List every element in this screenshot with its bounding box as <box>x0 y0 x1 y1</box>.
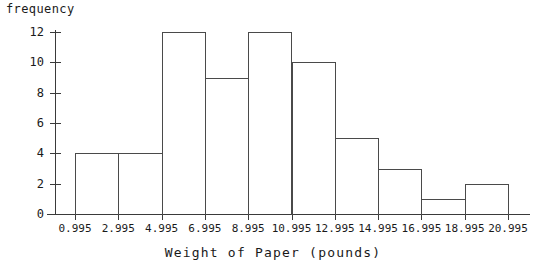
y-tick-label-4: 4 <box>10 147 44 159</box>
x-axis-title: Weight of Paper (pounds) <box>0 245 546 260</box>
histogram-bar <box>162 32 206 215</box>
x-tick-label-10: 20.995 <box>481 223 535 235</box>
histogram-bar <box>421 199 465 215</box>
y-tick-12 <box>50 32 61 33</box>
histogram-bar <box>378 169 422 216</box>
histogram-bar <box>205 78 249 216</box>
y-tick-label-12: 12 <box>10 26 44 38</box>
y-tick-label-2: 2 <box>10 178 44 190</box>
y-tick-label-8-wrap: 8 <box>0 87 44 99</box>
y-tick-label-0-wrap: 0 <box>0 208 44 220</box>
y-tick-6 <box>50 123 61 124</box>
histogram-bar <box>248 32 292 215</box>
plot-area: 0 2 4 6 8 10 12 <box>0 0 546 273</box>
y-tick-label-2-wrap: 2 <box>0 178 44 190</box>
histogram-bar <box>292 62 336 215</box>
histogram-bar <box>75 153 119 215</box>
histogram-figure: frequency 0 2 4 6 8 10 12 <box>0 0 546 273</box>
histogram-bar <box>335 138 379 215</box>
y-tick-label-10-wrap: 10 <box>0 56 44 68</box>
y-tick-label-6-wrap: 6 <box>0 117 44 129</box>
histogram-bar <box>118 153 162 215</box>
histogram-bar <box>465 184 509 215</box>
y-tick-label-6: 6 <box>10 117 44 129</box>
y-tick-2 <box>50 184 61 185</box>
y-tick-4 <box>50 153 61 154</box>
y-tick-8 <box>50 93 61 94</box>
y-tick-label-12-wrap: 12 <box>0 26 44 38</box>
y-tick-label-0: 0 <box>10 208 44 220</box>
y-tick-label-10: 10 <box>10 56 44 68</box>
y-tick-label-8: 8 <box>10 87 44 99</box>
y-tick-0 <box>50 214 61 215</box>
y-tick-10 <box>50 62 61 63</box>
y-tick-label-4-wrap: 4 <box>0 147 44 159</box>
